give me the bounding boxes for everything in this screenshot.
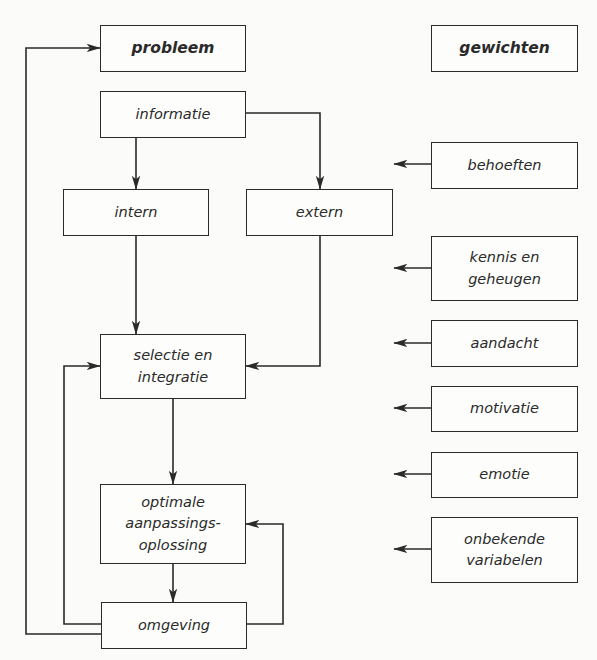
node-probleem: probleem [100,25,246,72]
node-intern-label: intern [115,202,158,223]
arrow-informatie-extern [245,113,320,189]
node-selectie-en-integratie: selectie en integratie [100,334,246,399]
arrow-omgeving-selectie [64,366,101,624]
weight-motivatie-label: motivatie [470,398,539,419]
arrow-omgeving-optimale [246,524,283,624]
weight-emotie-label: emotie [479,464,530,485]
node-gewichten-label: gewichten [459,37,549,59]
weight-kennis-en-geheugen: kennis en geheugen [431,236,578,301]
weight-kennis-label: kennis en geheugen [460,247,549,289]
weight-emotie: emotie [431,452,578,498]
weight-behoeften: behoeften [431,142,578,189]
node-optimale-label: optimale aanpassings-oplossing [109,492,237,555]
node-informatie: informatie [100,91,246,138]
node-extern: extern [246,189,393,236]
weight-motivatie: motivatie [431,386,578,432]
weight-aandacht: aandacht [431,320,578,367]
weight-onbekende-label: onbekende variabelen [450,529,559,571]
node-extern-label: extern [296,202,343,223]
node-selectie-label: selectie en integratie [123,345,223,387]
weight-onbekende-variabelen: onbekende variabelen [431,517,578,583]
node-probleem-label: probleem [132,37,215,59]
node-omgeving-label: omgeving [138,615,210,636]
node-intern: intern [63,189,209,236]
arrow-extern-selectie [246,235,320,366]
node-optimale-aanpassingsoplossing: optimale aanpassings-oplossing [100,484,246,564]
weight-aandacht-label: aandacht [471,333,539,354]
weight-behoeften-label: behoeften [467,155,541,176]
node-informatie-label: informatie [136,104,211,125]
node-gewichten: gewichten [431,25,578,72]
node-omgeving: omgeving [101,602,247,649]
